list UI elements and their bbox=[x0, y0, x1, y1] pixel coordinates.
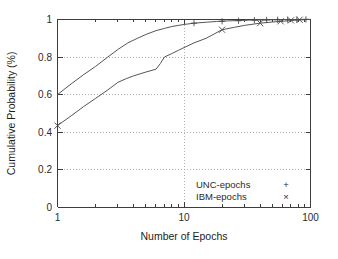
legend-marker-unc-epochs: + bbox=[283, 179, 289, 190]
chart-figure: 1 0.8 0.6 0.4 0.2 0 1 10 100 Number of E… bbox=[0, 0, 338, 259]
series-markers-ibm-epochs bbox=[54, 17, 302, 129]
y-tick-label-0.8: 0.8 bbox=[38, 52, 52, 63]
legend-label-ibm-epochs: IBM-epochs bbox=[196, 191, 247, 202]
y-axis-title: Cumulative Probability (%) bbox=[5, 52, 17, 176]
x-axis-title: Number of Epochs bbox=[141, 230, 228, 242]
x-tick-labels: 1 10 100 bbox=[55, 212, 320, 223]
y-tick-label-0: 0 bbox=[46, 202, 52, 213]
x-tick-label-100: 100 bbox=[302, 212, 319, 223]
legend-marker-ibm-epochs: × bbox=[283, 191, 289, 202]
x-tick-label-10: 10 bbox=[178, 212, 190, 223]
legend-label-unc-epochs: UNC-epochs bbox=[196, 179, 251, 190]
y-tick-label-0.2: 0.2 bbox=[38, 164, 52, 175]
y-tick-labels: 1 0.8 0.6 0.4 0.2 0 bbox=[38, 14, 52, 213]
x-tick-label-1: 1 bbox=[55, 212, 61, 223]
y-tick-label-1: 1 bbox=[46, 14, 52, 25]
chart-legend: UNC-epochs + IBM-epochs × bbox=[196, 179, 289, 202]
cumulative-probability-plot: 1 0.8 0.6 0.4 0.2 0 1 10 100 Number of E… bbox=[0, 0, 338, 259]
y-tick-label-0.6: 0.6 bbox=[38, 89, 52, 100]
y-tick-label-0.4: 0.4 bbox=[38, 127, 52, 138]
